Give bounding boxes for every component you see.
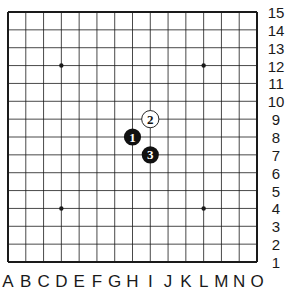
row-label-2: 2 [272, 236, 280, 253]
row-label-14: 14 [268, 21, 285, 38]
column-label-A: A [2, 272, 13, 292]
star-point-D4 [59, 206, 63, 210]
row-label-8: 8 [272, 129, 280, 146]
row-label-5: 5 [272, 182, 280, 199]
column-label-H: H [126, 272, 138, 292]
star-point-L4 [201, 206, 205, 210]
row-label-7: 7 [272, 146, 280, 163]
column-label-C: C [37, 272, 49, 292]
column-label-M: M [214, 272, 228, 292]
row-label-15: 15 [268, 4, 285, 21]
move-number: 3 [147, 147, 154, 162]
column-label-E: E [73, 272, 84, 292]
stone-white-I9[interactable]: 2 [142, 111, 159, 128]
column-label-J: J [164, 272, 173, 292]
star-point-D12 [59, 63, 63, 67]
column-label-D: D [55, 272, 67, 292]
row-label-11: 11 [268, 75, 284, 92]
column-label-O: O [250, 272, 263, 292]
star-point-L12 [201, 63, 205, 67]
move-number: 2 [147, 112, 154, 127]
row-label-12: 12 [268, 57, 285, 74]
row-label-9: 9 [272, 111, 280, 128]
column-label-L: L [199, 272, 208, 292]
column-label-G: G [108, 272, 121, 292]
row-label-13: 13 [268, 39, 285, 56]
go-board[interactable]: 123 [0, 0, 292, 304]
row-label-3: 3 [272, 218, 280, 235]
row-label-6: 6 [272, 164, 280, 181]
move-number: 1 [129, 130, 136, 145]
column-label-N: N [233, 272, 245, 292]
row-label-4: 4 [272, 200, 280, 217]
row-label-10: 10 [268, 93, 285, 110]
row-label-1: 1 [272, 254, 280, 271]
column-label-B: B [20, 272, 31, 292]
stone-black-H8[interactable]: 1 [124, 128, 141, 145]
stone-black-I7[interactable]: 3 [142, 146, 159, 163]
column-label-K: K [180, 272, 191, 292]
column-label-F: F [92, 272, 102, 292]
column-label-I: I [148, 272, 153, 292]
